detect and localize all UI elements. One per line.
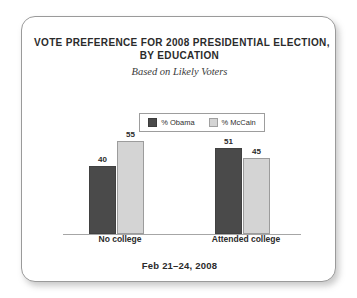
legend-swatch-obama-icon xyxy=(148,118,157,127)
bar-group-no-college: 40 55 No college xyxy=(89,129,151,234)
bar-group-attended-college: 51 45 Attended college xyxy=(215,129,277,234)
legend-label-mccain: % McCain xyxy=(222,118,256,127)
chart-title-block: VOTE PREFERENCE FOR 2008 PRESIDENTIAL EL… xyxy=(34,36,325,78)
chart-subtitle: Based on Likely Voters xyxy=(34,66,325,78)
chart-title-line-2: BY EDUCATION xyxy=(34,49,325,62)
legend-item-obama: % Obama xyxy=(148,118,194,127)
bar-value-attended-college-obama: 51 xyxy=(215,137,242,146)
legend-label-obama: % Obama xyxy=(161,118,194,127)
legend-item-mccain: % McCain xyxy=(209,118,256,127)
bar-value-no-college-mccain: 55 xyxy=(117,130,144,139)
bar-value-no-college-obama: 40 xyxy=(89,155,116,164)
bar-attended-college-mccain xyxy=(243,158,270,234)
chart-card: VOTE PREFERENCE FOR 2008 PRESIDENTIAL EL… xyxy=(21,16,336,282)
chart-plot-area: 40 55 No college 51 45 Attended xyxy=(63,129,301,235)
chart-footer-date: Feb 21–24, 2008 xyxy=(34,260,325,271)
category-label-no-college: No college xyxy=(67,234,173,244)
category-label-attended-college: Attended college xyxy=(193,234,299,244)
bar-no-college-mccain xyxy=(117,141,144,234)
bar-no-college-obama xyxy=(89,166,116,234)
bar-value-attended-college-mccain: 45 xyxy=(243,147,270,156)
legend-swatch-mccain-icon xyxy=(209,118,218,127)
bar-attended-college-obama xyxy=(215,148,242,234)
chart-title-line-1: VOTE PREFERENCE FOR 2008 PRESIDENTIAL EL… xyxy=(34,36,325,49)
x-axis-line xyxy=(63,234,301,235)
chart-figure: VOTE PREFERENCE FOR 2008 PRESIDENTIAL EL… xyxy=(0,0,357,298)
